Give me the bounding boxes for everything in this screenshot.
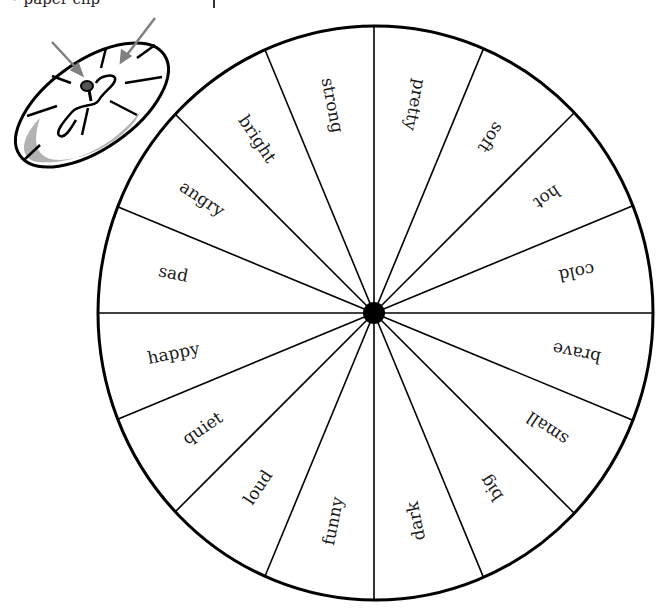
wheel-label-bright: bright	[235, 111, 281, 166]
wheel-label-loud: loud	[239, 466, 277, 508]
wheel-spoke	[374, 113, 574, 313]
wheel-label-pretty: pretty	[400, 77, 430, 133]
wheel-label-strong: strong	[317, 76, 348, 135]
spinner-page: • paper clip	[0, 0, 665, 610]
wheel-spoke	[374, 206, 633, 313]
wheel-label-soft: soft	[474, 119, 509, 157]
wheel-label-small: small	[523, 408, 572, 450]
wheel-spoke	[175, 313, 374, 512]
wheel-label-sad: sad	[157, 260, 190, 285]
paper-clip-icon	[58, 76, 115, 137]
wheel-label-quiet: quiet	[178, 407, 226, 448]
wheel-spoke	[374, 313, 574, 513]
illustration-spokes	[24, 45, 162, 160]
wheel-label-happy: happy	[146, 338, 202, 368]
wheel-label-cold: cold	[557, 259, 596, 286]
illustration-arrows	[52, 18, 155, 75]
spinner-illustration	[0, 18, 189, 192]
spinner-svg: prettysofthotcoldbravesmallbigdarkfunnyl…	[0, 0, 665, 610]
wheel-label-angry: angry	[176, 176, 229, 220]
wheel-label-brave: brave	[551, 339, 603, 368]
wheel-spoke	[118, 207, 374, 313]
wheel-label-hot: hot	[530, 181, 565, 213]
word-wheel: prettysofthotcoldbravesmallbigdarkfunnyl…	[98, 26, 653, 600]
wheel-spoke	[175, 114, 374, 313]
wheel-label-funny: funny	[318, 495, 347, 547]
wheel-hub	[363, 302, 385, 324]
wheel-label-big: big	[475, 471, 507, 505]
wheel-label-dark: dark	[402, 499, 429, 542]
